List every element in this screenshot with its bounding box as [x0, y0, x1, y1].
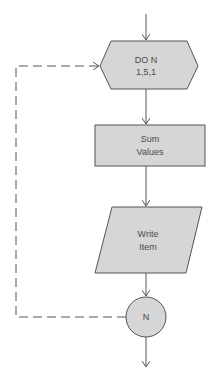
- flowchart: DO N 1,5,1 Sum Values Write Item N: [0, 0, 216, 378]
- sum-line1: Sum: [141, 134, 160, 144]
- connector-label: N: [143, 312, 150, 322]
- connector-node: N: [126, 297, 166, 337]
- do-loop-line1: DO N: [135, 55, 158, 65]
- sum-values-node: Sum Values: [95, 125, 205, 166]
- do-loop-node: DO N 1,5,1: [100, 41, 198, 89]
- do-loop-line2: 1,5,1: [136, 67, 156, 77]
- loop-back-dashed-line: [16, 66, 126, 317]
- write-line1: Write: [138, 229, 159, 239]
- sum-line2: Values: [137, 147, 164, 157]
- write-item-node: Write Item: [95, 207, 202, 273]
- write-line2: Item: [139, 242, 157, 252]
